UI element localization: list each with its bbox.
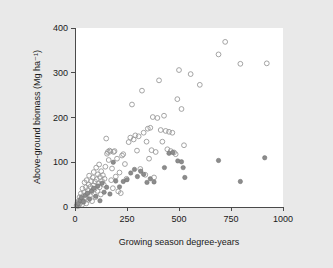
y-tick-label: 300	[53, 68, 68, 78]
y-axis-title: Above-ground biomass (Mg ha⁻¹)	[32, 50, 42, 184]
data-point-filled	[152, 180, 156, 184]
data-point-filled	[114, 179, 118, 183]
data-point-filled	[135, 174, 139, 178]
data-point-filled	[148, 177, 152, 181]
data-point-filled	[216, 158, 220, 162]
data-point-filled	[162, 165, 166, 169]
data-point-filled	[81, 199, 85, 203]
data-point-filled	[108, 192, 112, 196]
data-point-filled	[129, 171, 133, 175]
scatter-plot-figure: 02505007501000 0100200300400 Growing sea…	[0, 0, 333, 268]
x-tick-label: 500	[171, 214, 186, 224]
data-point-filled	[263, 156, 267, 160]
x-tick-label: 750	[223, 214, 238, 224]
data-point-filled	[171, 150, 175, 154]
data-point-filled	[179, 160, 183, 164]
data-point-filled	[79, 195, 83, 199]
data-point-filled	[132, 167, 136, 171]
data-point-filled	[102, 190, 106, 194]
y-tick-label: 0	[63, 202, 68, 212]
data-point-filled	[125, 178, 129, 182]
y-tick-label: 200	[53, 113, 68, 123]
data-point-filled	[183, 175, 187, 179]
data-point-filled	[98, 199, 102, 203]
x-tick-label: 250	[119, 214, 134, 224]
data-point-filled	[104, 185, 108, 189]
chart-canvas: 02505007501000 0100200300400 Growing sea…	[0, 0, 333, 268]
data-point-filled	[238, 179, 242, 183]
y-tick-label: 100	[53, 157, 68, 167]
data-point-filled	[85, 191, 89, 195]
data-point-filled	[96, 184, 100, 188]
data-point-filled	[117, 185, 121, 189]
data-point-filled	[141, 172, 145, 176]
data-point-filled	[100, 181, 104, 185]
x-axis-title: Growing season degree-years	[119, 237, 240, 247]
data-point-filled	[111, 160, 115, 164]
data-point-filled	[181, 165, 185, 169]
x-tick-label: 1000	[273, 214, 293, 224]
data-point-filled	[87, 197, 91, 201]
x-tick-label: 0	[72, 214, 77, 224]
data-point-filled	[94, 194, 98, 198]
data-point-filled	[92, 186, 96, 190]
y-tick-label: 400	[53, 23, 68, 33]
data-point-filled	[145, 180, 149, 184]
